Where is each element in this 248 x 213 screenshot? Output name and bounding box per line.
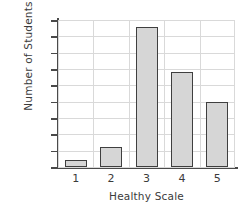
y-tick-mark <box>51 118 58 120</box>
x-tick-label: 5 <box>202 173 232 184</box>
gridline-vertical <box>164 20 165 167</box>
y-tick-mark <box>51 20 58 22</box>
x-tick-label: 3 <box>132 173 162 184</box>
y-tick-mark <box>51 167 58 169</box>
bar[interactable] <box>206 102 228 167</box>
x-tick-label: 2 <box>96 173 126 184</box>
x-tick-label: 1 <box>61 173 91 184</box>
bar[interactable] <box>65 160 87 167</box>
y-tick-mark <box>51 134 58 136</box>
x-tick-label: 4 <box>167 173 197 184</box>
gridline-vertical <box>234 20 235 167</box>
x-axis-title: Healthy Scale <box>58 190 235 202</box>
y-tick-mark <box>51 36 58 38</box>
y-tick-mark <box>51 102 58 104</box>
y-tick-mark <box>51 151 58 153</box>
y-tick-mark <box>51 53 58 55</box>
plot-area <box>58 20 235 167</box>
bar[interactable] <box>100 147 122 167</box>
gridline-vertical <box>58 20 59 167</box>
bar-chart: Number of Students 051015202530354045 12… <box>0 0 248 213</box>
bar[interactable] <box>171 72 193 167</box>
gridline-vertical <box>129 20 130 167</box>
y-tick-mark <box>51 85 58 87</box>
y-axis-title: Number of Students <box>22 0 34 136</box>
bar[interactable] <box>136 27 158 167</box>
gridline-horizontal <box>58 20 235 21</box>
x-axis-line <box>52 167 238 169</box>
gridline-vertical <box>93 20 94 167</box>
y-tick-mark <box>51 69 58 71</box>
gridline-vertical <box>200 20 201 167</box>
